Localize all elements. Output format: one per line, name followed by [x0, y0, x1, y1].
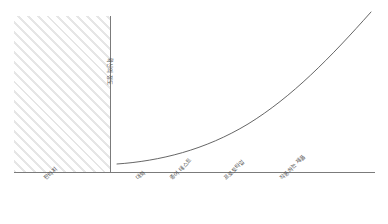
- fantasy-hatched-region: [14, 16, 110, 172]
- x-tick-label-conversation: 대화: [134, 169, 147, 182]
- x-axis-line: [14, 172, 375, 173]
- x-tick-label-working-product: 작동하는 제품: [278, 153, 307, 182]
- chart-canvas: 확신의 정도 판타지 대화 종이 테스트 프로토타입 작동하는 제품: [0, 0, 388, 224]
- y-axis-label: 확신의 정도: [106, 58, 113, 118]
- x-tick-label-paper-test: 종이 테스트: [168, 156, 193, 181]
- x-tick-label-prototype: 프로토타입: [222, 158, 246, 182]
- curve-path: [117, 12, 371, 164]
